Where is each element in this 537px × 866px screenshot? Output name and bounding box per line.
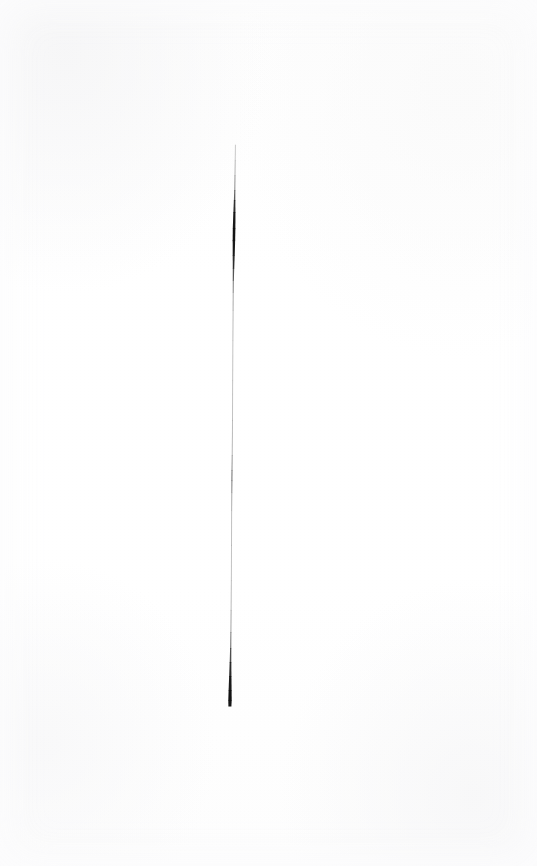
ink-stroke-layer [0, 0, 537, 866]
artwork-canvas: Untitled (Vertical Stroke) [0, 0, 537, 866]
vertical-stroke-svg [0, 0, 537, 866]
